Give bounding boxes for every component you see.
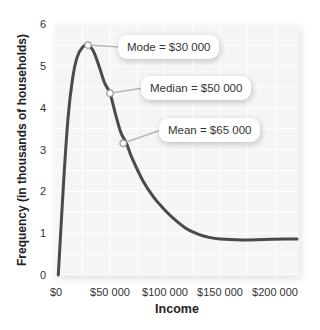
x-tick-label: $0 xyxy=(50,286,62,298)
x-tick-label: $200 000 xyxy=(252,286,298,298)
mean-callout: Mean = $65 000 xyxy=(159,118,260,142)
mode-callout: Mode = $30 000 xyxy=(118,35,219,59)
y-tick-label: 5 xyxy=(34,60,46,72)
x-tick-label: $100 000 xyxy=(142,286,188,298)
annotation-marker xyxy=(85,42,91,48)
y-tick-label: 1 xyxy=(34,227,46,239)
y-tick-label: 6 xyxy=(34,18,46,30)
y-tick-label: 0 xyxy=(34,269,46,281)
y-tick-label: 3 xyxy=(34,144,46,156)
x-axis-label: Income xyxy=(155,302,199,316)
y-tick-label: 4 xyxy=(34,102,46,114)
leader-line xyxy=(110,88,143,93)
y-axis-label: Frequency (in thousands of households) xyxy=(15,34,29,266)
gridlines xyxy=(55,24,299,275)
y-tick-label: 2 xyxy=(34,185,46,197)
median-callout: Median = $50 000 xyxy=(141,76,251,100)
annotation-marker xyxy=(107,90,113,96)
annotation-marker xyxy=(120,140,126,146)
x-tick-label: $50 000 xyxy=(90,286,130,298)
x-tick-label: $150 000 xyxy=(197,286,243,298)
leader-line xyxy=(123,130,161,143)
